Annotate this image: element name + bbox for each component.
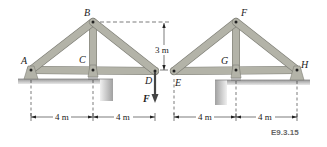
joint-label-a: A [20, 55, 28, 66]
left-span-2-label: 4 m [116, 112, 130, 122]
left-ground [18, 79, 113, 101]
left-members [31, 22, 155, 71]
joint-label-b: B [84, 7, 90, 18]
right-ground [215, 80, 310, 105]
force-label: F [142, 93, 150, 104]
right-span-dimension [174, 113, 297, 121]
joint-label-f: F [240, 7, 248, 18]
left-span-1-label: 4 m [55, 112, 69, 122]
right-span-2-label: 4 m [258, 112, 272, 122]
force-arrow-icon [152, 72, 159, 103]
left-span-dimension [31, 113, 155, 121]
truss-diagram: A B C D 3 m F [0, 0, 327, 147]
joint-label-c: C [79, 54, 86, 65]
right-members [174, 22, 297, 71]
joint-label-d: D [144, 75, 153, 86]
right-truss: E F G H 4 m 4 m [173, 7, 311, 122]
figure-id: E9.3.15 [271, 128, 299, 137]
joint-label-h: H [300, 59, 309, 70]
left-truss: A B C D 3 m F [18, 7, 170, 122]
right-span-1-label: 4 m [198, 112, 212, 122]
height-label: 3 m [155, 45, 169, 55]
joint-label-g: G [221, 55, 228, 66]
joint-label-e: E [174, 77, 181, 88]
